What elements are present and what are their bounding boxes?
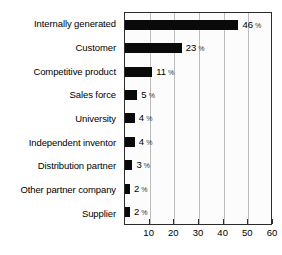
tick-mark bbox=[272, 219, 273, 224]
bar-row: 2% bbox=[125, 177, 271, 200]
tick-label: 20 bbox=[168, 227, 179, 238]
bar-row: 46% bbox=[125, 13, 271, 36]
bar-value-number: 2 bbox=[134, 183, 139, 194]
category-label: Other partner company bbox=[20, 184, 120, 195]
bar-value-label: 5% bbox=[137, 89, 155, 101]
bar-value-label: 46% bbox=[238, 19, 261, 31]
bar bbox=[125, 43, 182, 53]
bar-value-label: 11% bbox=[152, 66, 174, 78]
bar-value-number: 23 bbox=[186, 42, 197, 53]
percent-sign: % bbox=[255, 20, 261, 31]
bar bbox=[125, 113, 135, 123]
bar-value-label: 4% bbox=[135, 112, 153, 124]
bar bbox=[125, 67, 152, 77]
category-label-row: University bbox=[0, 107, 120, 131]
bar-value-number: 4 bbox=[139, 112, 144, 123]
category-axis: Internally generatedCustomerCompetitive … bbox=[0, 12, 120, 225]
tick-label: 30 bbox=[193, 227, 204, 238]
category-label: Sales force bbox=[70, 89, 120, 100]
percent-sign: % bbox=[168, 67, 174, 78]
tick-label: 10 bbox=[143, 227, 154, 238]
bars-layer: 46%23%11%5%4%4%3%2%2% bbox=[125, 13, 271, 224]
percent-sign: % bbox=[146, 113, 152, 124]
tick-label: 60 bbox=[267, 227, 278, 238]
category-label: University bbox=[75, 113, 120, 124]
bar-chart: Internally generatedCustomerCompetitive … bbox=[0, 0, 282, 255]
bar bbox=[125, 160, 132, 170]
bar-value-number: 3 bbox=[136, 159, 141, 170]
category-label: Internally generated bbox=[34, 18, 120, 29]
category-label-row: Internally generated bbox=[0, 12, 120, 36]
bar-row: 11% bbox=[125, 60, 271, 83]
bar-row: 5% bbox=[125, 83, 271, 106]
percent-sign: % bbox=[144, 160, 150, 171]
category-label: Competitive product bbox=[33, 66, 120, 77]
category-label-row: Other partner company bbox=[0, 178, 120, 202]
category-label-row: Customer bbox=[0, 36, 120, 60]
bar-row: 4% bbox=[125, 130, 271, 153]
tick-label: 40 bbox=[217, 227, 228, 238]
category-label: Supplier bbox=[82, 208, 120, 219]
category-label-row: Sales force bbox=[0, 83, 120, 107]
category-label-row: Supplier bbox=[0, 201, 120, 225]
tick-mark bbox=[198, 219, 199, 224]
category-label: Independent inventor bbox=[29, 137, 120, 148]
tick-mark bbox=[223, 219, 224, 224]
percent-sign: % bbox=[141, 184, 147, 195]
percent-sign: % bbox=[141, 207, 147, 218]
category-label: Distribution partner bbox=[38, 160, 120, 171]
value-axis: 102030405060 bbox=[124, 225, 272, 247]
tick-mark bbox=[173, 219, 174, 224]
bar bbox=[125, 90, 137, 100]
category-label-row: Competitive product bbox=[0, 59, 120, 83]
bar-value-label: 23% bbox=[182, 42, 205, 54]
bar-value-label: 4% bbox=[135, 136, 153, 148]
bar-value-number: 46 bbox=[242, 19, 253, 30]
bar-value-number: 11 bbox=[156, 66, 166, 77]
category-label: Customer bbox=[76, 42, 120, 53]
percent-sign: % bbox=[198, 43, 204, 54]
percent-sign: % bbox=[146, 137, 152, 148]
bar-row: 4% bbox=[125, 107, 271, 130]
bar bbox=[125, 20, 238, 30]
bar-value-number: 4 bbox=[139, 136, 144, 147]
category-label-row: Distribution partner bbox=[0, 154, 120, 178]
category-label-row: Independent inventor bbox=[0, 130, 120, 154]
bar-value-label: 2% bbox=[130, 206, 148, 218]
bar bbox=[125, 137, 135, 147]
percent-sign: % bbox=[149, 90, 155, 101]
bar-value-label: 3% bbox=[132, 159, 150, 171]
plot-area: 46%23%11%5%4%4%3%2%2% bbox=[124, 12, 272, 225]
bar-value-number: 2 bbox=[134, 206, 139, 217]
tick-label: 50 bbox=[242, 227, 253, 238]
bar-value-label: 2% bbox=[130, 183, 148, 195]
bar-value-number: 5 bbox=[141, 89, 146, 100]
tick-mark bbox=[247, 219, 248, 224]
tick-mark bbox=[149, 219, 150, 224]
bar-row: 3% bbox=[125, 154, 271, 177]
bar-row: 23% bbox=[125, 36, 271, 59]
